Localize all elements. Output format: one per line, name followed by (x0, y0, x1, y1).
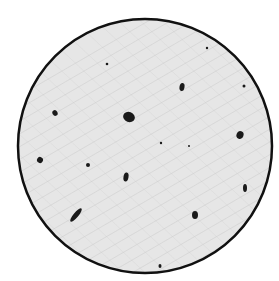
particle (160, 142, 162, 144)
particle (188, 145, 190, 147)
particle (106, 63, 109, 66)
particle (243, 85, 246, 88)
particle (159, 264, 162, 268)
particle (243, 184, 247, 192)
microscope-field-image (0, 0, 279, 281)
field-of-view (18, 19, 272, 273)
particle (86, 163, 90, 167)
particle (206, 47, 208, 49)
particle (192, 211, 198, 219)
